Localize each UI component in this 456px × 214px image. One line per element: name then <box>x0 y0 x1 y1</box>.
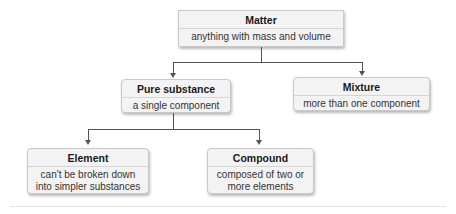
node-element: Element can't be broken down into simple… <box>27 148 149 194</box>
arrow-down-icon <box>170 73 176 78</box>
node-mixture-description: more than one component <box>294 96 429 113</box>
node-element-description: can't be broken down into simpler substa… <box>28 167 148 196</box>
node-compound: Compound composed of two or more element… <box>207 148 314 194</box>
node-element-description-line2: into simpler substances <box>32 181 144 193</box>
connector-matter-stem <box>261 47 262 62</box>
node-matter-description: anything with mass and volume <box>179 29 343 46</box>
node-matter-title: Matter <box>179 11 343 29</box>
node-pure-substance-description: a single component <box>122 98 230 115</box>
node-element-title: Element <box>28 149 148 167</box>
node-compound-description-line2: more elements <box>212 181 309 193</box>
bottom-divider <box>10 206 446 207</box>
connector-matter-horizontal <box>173 62 363 63</box>
node-mixture-title: Mixture <box>294 78 429 96</box>
arrow-down-icon <box>359 71 365 76</box>
node-pure-substance: Pure substance a single component <box>121 79 231 113</box>
node-compound-title: Compound <box>208 149 313 167</box>
node-pure-substance-title: Pure substance <box>122 80 230 98</box>
node-element-description-line1: can't be broken down <box>32 169 144 181</box>
arrow-down-icon <box>85 140 91 145</box>
node-compound-description: composed of two or more elements <box>208 167 313 196</box>
arrow-down-icon <box>256 140 262 145</box>
node-matter: Matter anything with mass and volume <box>178 10 344 47</box>
node-compound-description-line1: composed of two or <box>212 169 309 181</box>
node-mixture: Mixture more than one component <box>293 77 430 111</box>
connector-pure-substance-stem <box>173 113 174 129</box>
connector-pure-substance-horizontal <box>88 129 260 130</box>
